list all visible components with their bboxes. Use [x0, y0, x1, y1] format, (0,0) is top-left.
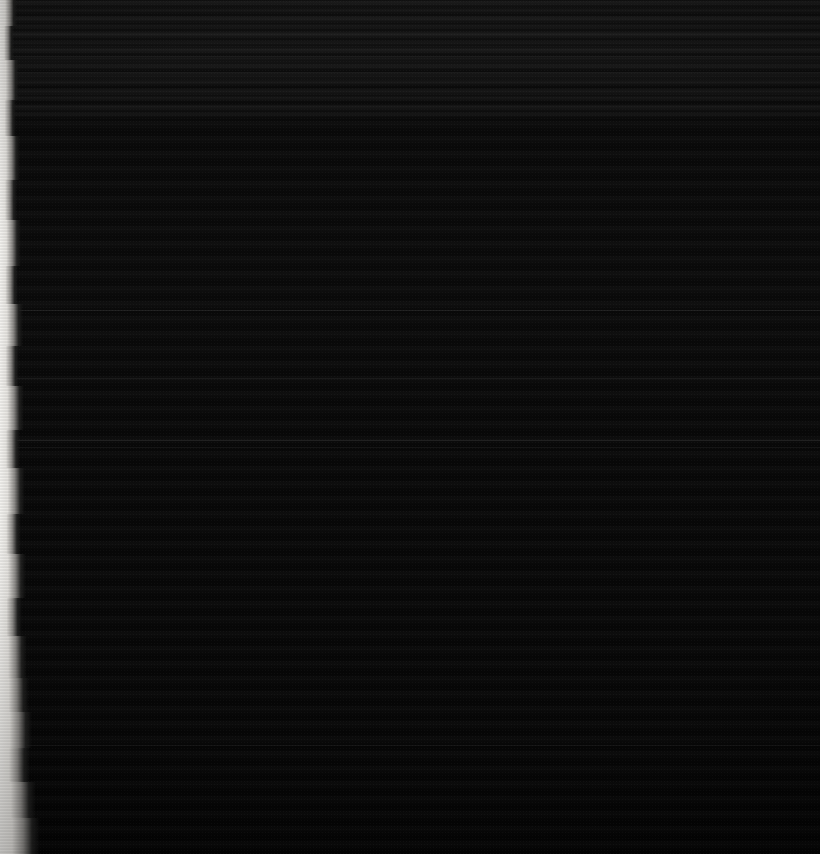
page-edge-segment — [0, 554, 26, 598]
horizontal-rule-6 — [0, 447, 820, 448]
page-edge-segment — [0, 598, 22, 636]
horizontal-rule-2 — [0, 72, 820, 73]
horizontal-rule-3 — [0, 310, 820, 311]
page-edge-segment — [0, 304, 23, 346]
page-edge-segment — [0, 100, 16, 136]
page-edge-segment — [0, 60, 19, 100]
horizontal-rule-4 — [0, 378, 820, 379]
horizontal-rule-1 — [0, 56, 820, 57]
horizontal-rule-5 — [0, 440, 820, 441]
scan-grain-texture — [0, 0, 820, 854]
page-edge-segment — [0, 0, 17, 26]
horizontal-rule-7 — [0, 745, 820, 746]
page-edge-segment — [0, 782, 36, 818]
page-edge-segment — [0, 386, 24, 430]
page-edge-segment — [0, 180, 17, 220]
page-left-edge — [0, 0, 44, 854]
page-edge-segment — [0, 26, 14, 60]
page-edge-segment — [0, 136, 20, 180]
page-edge-segment — [0, 748, 30, 782]
page-edge-segment — [0, 818, 40, 854]
page-edge-segment — [0, 468, 25, 514]
page-edge-segment — [0, 220, 21, 266]
page-edge-segment — [0, 346, 19, 386]
page-edge-segment — [0, 514, 21, 554]
page-edge-segment — [0, 430, 20, 468]
page-edge-segment — [0, 712, 32, 748]
scanned-page — [0, 0, 820, 854]
page-edge-segment — [0, 266, 18, 304]
page-edge-segment — [0, 636, 27, 678]
page-edge-segment — [0, 678, 29, 712]
